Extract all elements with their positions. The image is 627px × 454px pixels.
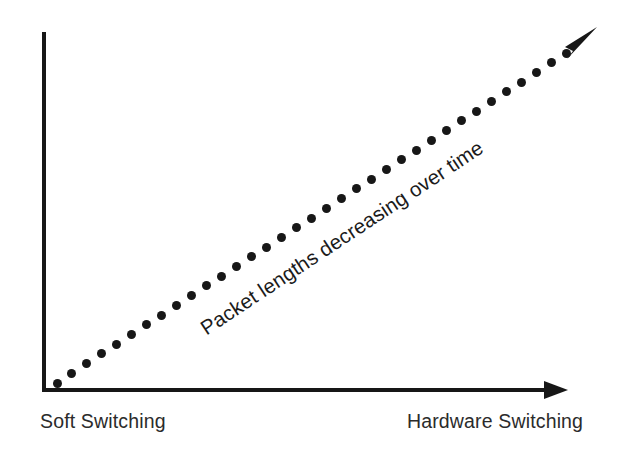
trend-dot (397, 155, 406, 164)
axis-label-hardware-switching: Hardware Switching (407, 410, 583, 433)
trend-dot (127, 330, 136, 339)
trend-dot (532, 68, 541, 77)
trend-dot (412, 146, 421, 155)
trend-dot (277, 233, 286, 242)
trend-arrowhead-icon (553, 25, 599, 71)
trend-dot (67, 369, 76, 378)
trend-dot (472, 107, 481, 116)
trend-dot (502, 87, 511, 96)
trend-dot (517, 78, 526, 87)
trend-dot (202, 281, 211, 290)
trend-dot (232, 262, 241, 271)
trend-dot (322, 204, 331, 213)
trend-dot (487, 97, 496, 106)
trend-dot (187, 291, 196, 300)
trend-dot (442, 126, 451, 135)
diagram-canvas: Packet lengths decreasing over time Soft… (0, 0, 627, 454)
trend-dot (367, 175, 376, 184)
trend-dot (53, 379, 62, 388)
trend-dot (457, 116, 466, 125)
trend-dot (382, 165, 391, 174)
trend-dot (307, 214, 316, 223)
trend-dot (172, 301, 181, 310)
trend-dot (157, 311, 166, 320)
trend-dot (247, 252, 256, 261)
trend-dot (427, 136, 436, 145)
trend-line-dots (0, 0, 627, 454)
trend-dot (337, 194, 346, 203)
trend-dot (292, 223, 301, 232)
trend-dot (97, 349, 106, 358)
trend-dot (352, 184, 361, 193)
trend-dot (142, 320, 151, 329)
axis-label-soft-switching: Soft Switching (40, 410, 166, 433)
trend-dot (217, 272, 226, 281)
trend-dot (262, 243, 271, 252)
trend-dot (82, 359, 91, 368)
trend-dot (112, 340, 121, 349)
